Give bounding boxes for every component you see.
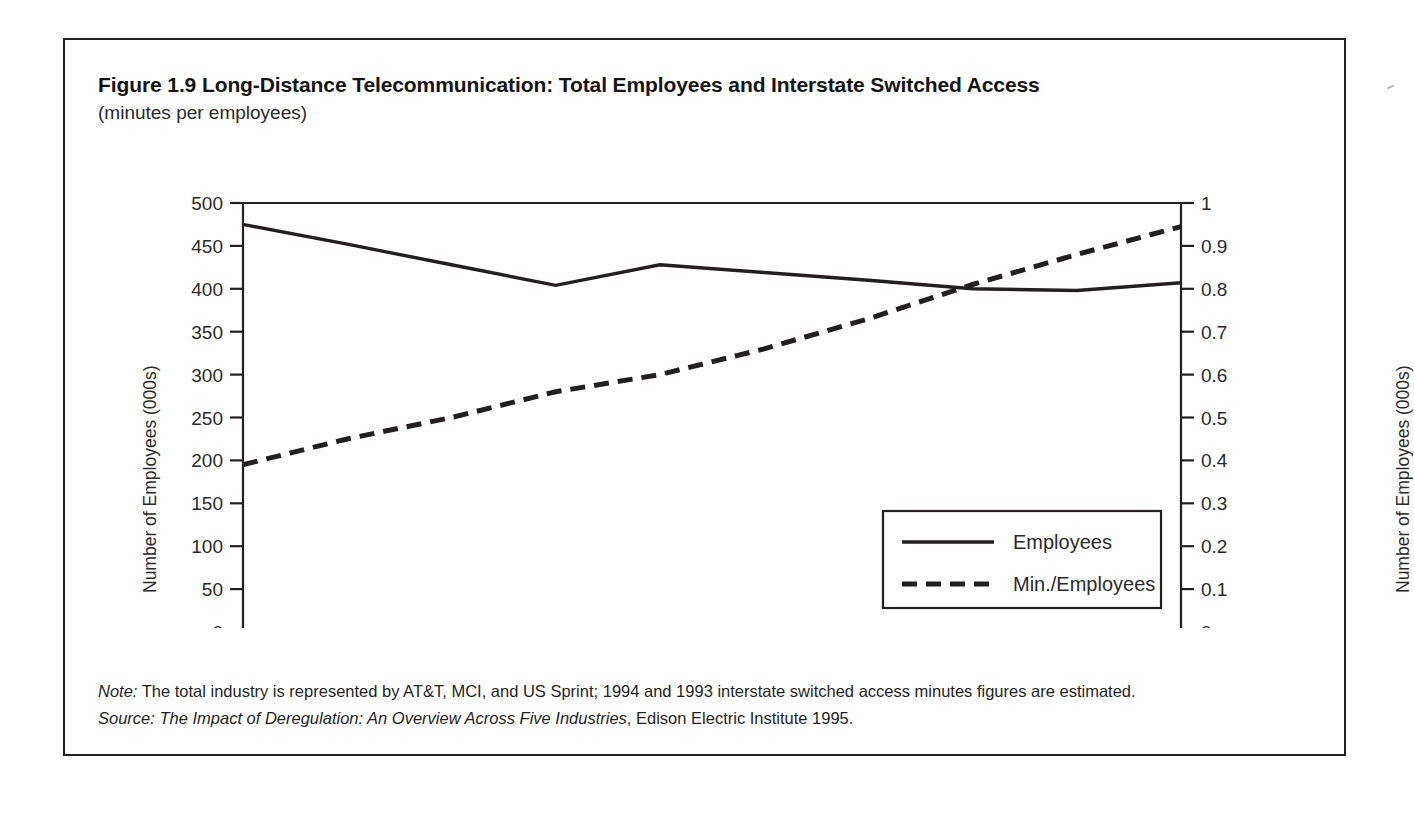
y-tick-label-left: 150: [191, 493, 223, 514]
source-rest: , Edison Electric Institute 1995.: [627, 709, 854, 727]
source-title: The Impact of Deregulation: An Overview …: [155, 709, 627, 727]
footnotes: Note: The total industry is represented …: [98, 678, 1313, 732]
line-chart-svg: 05010015020025030035040045050000.10.20.3…: [98, 148, 1313, 628]
y-tick-label-right: 0.8: [1201, 279, 1227, 300]
y-tick-label-right: 0.9: [1201, 236, 1227, 257]
figure-container: Figure 1.9 Long-Distance Telecommunicati…: [63, 38, 1346, 756]
y-tick-label-right: 0.7: [1201, 322, 1227, 343]
note-label: Note:: [98, 682, 137, 700]
y-tick-label-right: 0.2: [1201, 536, 1227, 557]
y-tick-label-left: 350: [191, 322, 223, 343]
note-text: The total industry is represented by AT&…: [137, 682, 1135, 700]
source-line: Source: The Impact of Deregulation: An O…: [98, 705, 1313, 732]
title-block: Figure 1.9 Long-Distance Telecommunicati…: [98, 72, 1308, 126]
y-tick-label-right: 0.6: [1201, 365, 1227, 386]
y-tick-label-left: 400: [191, 279, 223, 300]
y-tick-label-right: 0.5: [1201, 408, 1227, 429]
y-tick-label-left: 200: [191, 450, 223, 471]
y-axis-right-title: Number of Employees (000s): [1393, 365, 1414, 593]
source-label: Source:: [98, 709, 155, 727]
y-tick-label-left: 100: [191, 536, 223, 557]
y-tick-label-left: 50: [202, 579, 223, 600]
y-tick-label-right: 1: [1201, 193, 1212, 214]
y-tick-label-left: 300: [191, 365, 223, 386]
y-tick-label-left: 0: [212, 622, 223, 628]
y-tick-label-left: 250: [191, 408, 223, 429]
figure-title: Figure 1.9 Long-Distance Telecommunicati…: [98, 72, 1308, 98]
legend-label-0: Employees: [1013, 531, 1112, 553]
y-tick-label-right: 0.1: [1201, 579, 1227, 600]
chart-area: Number of Employees (000s) Number of Emp…: [98, 148, 1313, 628]
y-tick-label-right: 0: [1201, 622, 1212, 628]
y-tick-label-right: 0.4: [1201, 450, 1228, 471]
page-edge-mark: [1387, 85, 1394, 89]
y-tick-label-left: 450: [191, 236, 223, 257]
figure-subtitle: (minutes per employees): [98, 100, 1308, 126]
legend-label-1: Min./Employees: [1013, 573, 1155, 595]
note-line: Note: The total industry is represented …: [98, 678, 1313, 705]
y-tick-label-left: 500: [191, 193, 223, 214]
y-tick-label-right: 0.3: [1201, 493, 1227, 514]
series-line-0: [243, 224, 1181, 290]
series-line-1: [243, 227, 1181, 465]
